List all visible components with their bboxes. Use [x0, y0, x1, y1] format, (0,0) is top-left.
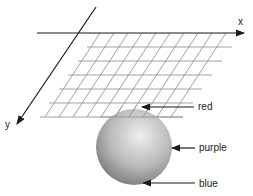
y-axis: [17, 7, 96, 124]
blue-label: blue: [199, 178, 218, 189]
red-label: red: [198, 101, 212, 112]
y-axis-label: y: [5, 119, 10, 130]
purple-label: purple: [199, 142, 227, 153]
x-axis-label: x: [238, 16, 243, 27]
diagram-canvas: x y red purple blue: [0, 0, 253, 196]
sphere: [96, 109, 172, 185]
